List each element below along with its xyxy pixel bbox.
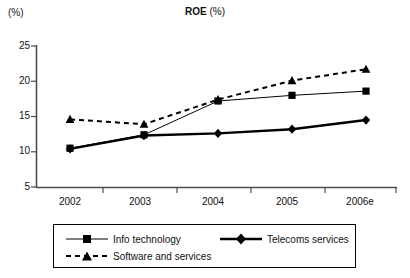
legend-label-telecoms-services: Telecoms services <box>267 234 349 245</box>
legend-swatch-software-and-services <box>66 250 108 262</box>
series-software-and-services <box>66 65 371 128</box>
series-telecoms-services <box>66 115 370 153</box>
legend-item-software-and-services: Software and services <box>66 250 211 262</box>
y-tick-label-20: 20 <box>8 75 30 86</box>
x-axis-ticks <box>103 188 396 194</box>
chart-figure: (%) ROE (%) 25 20 15 10 5 2002 2003 2004… <box>0 0 410 278</box>
y-tick-label-10: 10 <box>8 145 30 156</box>
y-tick-label-15: 15 <box>8 110 30 121</box>
x-tick-label-2005: 2005 <box>260 196 314 207</box>
y-axis-ticks <box>31 46 37 187</box>
legend-label-info-technology: Info technology <box>113 234 181 245</box>
y-tick-label-25: 25 <box>8 40 30 51</box>
data-point-marker <box>140 120 149 128</box>
data-point-marker <box>288 76 297 84</box>
y-tick-label-5: 5 <box>8 181 30 192</box>
x-tick-label-2002: 2002 <box>43 196 97 207</box>
chart-legend: Info technology Telecoms services Softwa… <box>53 224 356 268</box>
legend-swatch-telecoms-services <box>220 233 262 245</box>
axis-lines <box>36 45 397 188</box>
data-point-marker <box>288 92 295 99</box>
legend-item-info-technology: Info technology <box>66 233 181 245</box>
x-tick-label-2003: 2003 <box>113 196 167 207</box>
data-point-marker <box>362 88 369 95</box>
x-tick-label-2006e: 2006e <box>333 196 387 207</box>
data-point-marker <box>214 129 222 138</box>
data-point-marker <box>288 125 296 134</box>
x-tick-label-2004: 2004 <box>186 196 240 207</box>
legend-swatch-info-technology <box>66 233 108 245</box>
series-layer <box>66 65 371 154</box>
legend-item-telecoms-services: Telecoms services <box>220 233 349 245</box>
data-point-marker <box>362 115 370 124</box>
legend-label-software-and-services: Software and services <box>113 251 211 262</box>
